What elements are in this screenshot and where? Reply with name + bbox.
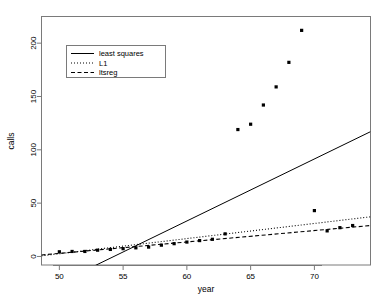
data-point <box>198 239 201 242</box>
y-tick-label: 0 <box>29 254 38 259</box>
x-tick-label: 55 <box>119 272 128 281</box>
x-tick-label: 50 <box>55 272 64 281</box>
data-point <box>287 61 290 64</box>
legend: least squaresL1ltsreg <box>67 46 166 78</box>
data-point <box>71 250 74 253</box>
data-point <box>338 226 341 229</box>
x-tick-label: 70 <box>310 272 319 281</box>
y-tick-label: 50 <box>29 198 38 207</box>
data-point <box>300 29 303 32</box>
y-axis-title: calls <box>6 132 16 149</box>
data-point <box>109 248 112 251</box>
data-point <box>249 123 252 126</box>
data-point <box>96 249 99 252</box>
data-point <box>134 246 137 249</box>
regression-scatter-plot: 050100150200 calls 5055606570 year least… <box>0 0 391 303</box>
chart-container: 050100150200 calls 5055606570 year least… <box>0 0 391 303</box>
y-tick-label: 100 <box>29 143 38 157</box>
x-tick-label: 60 <box>182 272 191 281</box>
y-tick-label: 200 <box>29 36 38 50</box>
data-point <box>160 244 163 247</box>
y-tick-label: 150 <box>29 89 38 103</box>
data-point <box>122 247 125 250</box>
data-point <box>147 245 150 248</box>
legend-label: least squares <box>99 49 144 58</box>
data-point <box>173 242 176 245</box>
legend-label: L1 <box>99 59 107 68</box>
x-axis-title: year <box>198 284 215 294</box>
data-point <box>185 240 188 243</box>
plot-background <box>0 0 391 303</box>
data-point <box>211 238 214 241</box>
x-tick-label: 65 <box>246 272 255 281</box>
data-point <box>313 209 316 212</box>
data-point <box>224 232 227 235</box>
data-point <box>262 103 265 106</box>
legend-label: ltsreg <box>99 68 117 77</box>
data-point <box>83 250 86 253</box>
data-point <box>351 224 354 227</box>
data-point <box>58 250 61 253</box>
data-point <box>275 85 278 88</box>
data-point <box>236 128 239 131</box>
data-point <box>326 229 329 232</box>
